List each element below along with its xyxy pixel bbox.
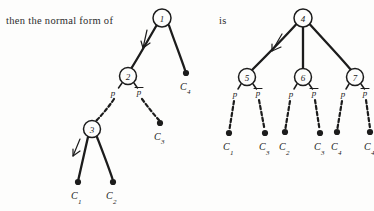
- edge-3-to-c2: [97, 137, 113, 179]
- branch-label-pbar-7: p: [362, 88, 368, 98]
- node-2-label: 2: [126, 72, 131, 82]
- left-tree-group: 1 2 3 p p C 4 C 3 C: [71, 9, 191, 206]
- leaf-dot-c4a-right: [334, 129, 340, 135]
- edge-1-to-c4: [169, 26, 185, 71]
- leaf-dot-c4b-right: [367, 129, 373, 135]
- svg-text:4: 4: [338, 149, 342, 157]
- stub-5-left: [238, 84, 241, 89]
- leaf-dot-c3a-right: [262, 130, 268, 136]
- svg-text:C: C: [154, 131, 161, 142]
- node-5-label: 5: [245, 73, 250, 83]
- svg-text:1: 1: [230, 149, 234, 157]
- branch-label-pbar-5: p: [255, 88, 261, 98]
- leaf-label-c4-left: C 4: [180, 81, 191, 96]
- svg-text:C: C: [71, 190, 78, 201]
- svg-text:C: C: [180, 81, 187, 92]
- stub-7-left: [346, 84, 349, 89]
- svg-text:1: 1: [78, 198, 82, 206]
- leaf-dot-c3b-right: [317, 130, 323, 136]
- branch-label-p-6: p: [288, 89, 294, 99]
- leaf-label-c2-left: C 2: [106, 190, 117, 206]
- node-3-label: 3: [89, 125, 95, 135]
- edge-5-to-c3: [259, 100, 265, 129]
- branch-label-pbar-left: p: [136, 87, 142, 97]
- leaf-dot-c3-left: [157, 120, 163, 126]
- edge-6-to-c2: [286, 101, 291, 128]
- stub-6-left: [294, 84, 297, 89]
- edge-2-to-3: [96, 99, 114, 121]
- leaf-dot-c1-right: [226, 130, 232, 136]
- svg-text:C: C: [314, 141, 321, 152]
- leaf-dot-c4-left: [183, 70, 189, 76]
- branch-label-p-left: p: [110, 88, 116, 98]
- branch-label-p-5: p: [232, 89, 238, 99]
- svg-text:C: C: [331, 141, 338, 152]
- svg-text:C: C: [259, 141, 266, 152]
- svg-text:3: 3: [320, 149, 325, 157]
- tree-diagram-svg: 1 2 3 p p C 4 C 3 C: [0, 0, 374, 211]
- leaf-label-c3a-right: C 3: [259, 141, 270, 157]
- svg-text:3: 3: [265, 149, 270, 157]
- branch-label-pbar-6: p: [311, 88, 317, 98]
- svg-text:C: C: [223, 141, 230, 152]
- leaf-label-c2-right: C 2: [279, 141, 290, 157]
- svg-text:C: C: [106, 190, 113, 201]
- edge-5-to-c1: [230, 101, 235, 129]
- stub-2-left: [119, 83, 123, 88]
- leaf-label-c3-left: C 3: [154, 131, 165, 146]
- leaf-label-c1-right: C 1: [223, 141, 234, 157]
- node-4-label: 4: [301, 14, 306, 24]
- node-1-label: 1: [160, 14, 165, 24]
- svg-text:4: 4: [187, 88, 191, 96]
- leaf-label-c1-left: C 1: [71, 190, 82, 206]
- leaf-label-c4b-right: C 4: [364, 141, 374, 157]
- edge-7-to-c4b: [366, 100, 370, 128]
- node-6-label: 6: [301, 73, 306, 83]
- leaf-label-c4a-right: C 4: [331, 141, 342, 157]
- svg-text:2: 2: [286, 149, 290, 157]
- edge-2-to-c3: [142, 99, 159, 120]
- svg-text:C: C: [364, 141, 371, 152]
- leaf-dot-c2-right: [282, 129, 288, 135]
- edge-6-to-c3: [315, 100, 320, 129]
- leaf-dot-c1-left: [75, 179, 81, 185]
- node-7-label: 7: [353, 73, 358, 83]
- figure-canvas: then the normal form of is 1: [0, 0, 374, 211]
- edge-7-to-c4a: [338, 101, 343, 128]
- branch-label-p-7: p: [340, 89, 346, 99]
- edge-3-to-c1: [79, 137, 89, 179]
- leaf-label-c3b-right: C 3: [314, 141, 325, 157]
- svg-text:3: 3: [160, 138, 165, 146]
- right-tree-group: 4 5 6 7 p p p p p p: [223, 9, 374, 157]
- svg-text:C: C: [279, 141, 286, 152]
- svg-text:2: 2: [113, 198, 117, 206]
- edge-4-to-7: [310, 25, 351, 71]
- leaf-dot-c2-left: [110, 179, 116, 185]
